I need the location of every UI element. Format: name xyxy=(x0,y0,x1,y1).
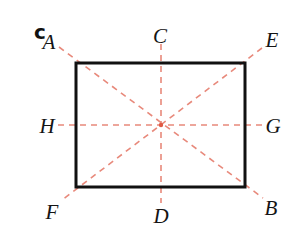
vertex-label-E: E xyxy=(266,30,279,51)
figure-panel-c: c A C E H G F D B xyxy=(0,0,300,239)
vertex-label-A: A xyxy=(43,32,56,53)
vertex-label-H: H xyxy=(39,116,54,137)
vertex-label-C: C xyxy=(153,26,167,47)
vertex-label-D: D xyxy=(153,206,168,227)
vertex-label-B: B xyxy=(265,198,278,219)
vertex-label-G: G xyxy=(265,116,280,137)
vertex-label-F: F xyxy=(46,202,59,223)
center-point-marker xyxy=(159,123,163,127)
